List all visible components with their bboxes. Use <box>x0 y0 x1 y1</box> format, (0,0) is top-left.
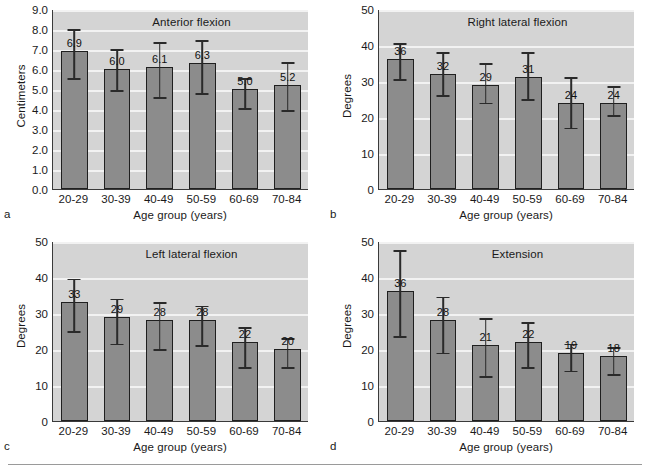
error-bar-cap-lower <box>436 95 449 97</box>
x-tick-label: 30-39 <box>101 192 130 206</box>
bar-group[interactable]: 31 <box>515 9 541 189</box>
bar-group[interactable]: 28 <box>430 241 456 421</box>
error-bar-cap-upper <box>281 62 294 64</box>
bar-series: 332928282220 <box>53 242 308 421</box>
error-bar-cap-lower <box>110 90 123 92</box>
error-bar-cap-upper <box>110 299 123 301</box>
y-tick-label: 10 <box>361 381 374 392</box>
bar-group[interactable]: 33 <box>61 241 87 421</box>
bar-group[interactable]: 29 <box>104 241 130 421</box>
bar-value-label: 24 <box>565 90 577 101</box>
panel-letter: a <box>4 207 10 221</box>
x-axis-label: Age group (years) <box>378 440 634 454</box>
bar-group[interactable]: 28 <box>189 241 215 421</box>
error-bar-cap-lower <box>394 79 407 81</box>
y-axis-ticks: 01020304050 <box>344 234 376 424</box>
bar-group[interactable]: 5.0 <box>232 9 258 189</box>
bar-value-label: 24 <box>608 90 620 101</box>
bar-group[interactable]: 36 <box>387 9 413 189</box>
bar-group[interactable]: 24 <box>558 9 584 189</box>
error-bar-line <box>442 52 444 95</box>
error-bar-cap-lower <box>522 367 535 369</box>
bar-group[interactable]: 36 <box>387 241 413 421</box>
error-bar-cap-upper <box>394 250 407 252</box>
error-bar-cap-lower <box>479 103 492 105</box>
y-tick-label: 6.0 <box>32 65 48 76</box>
plot-area: Extension362821221918 <box>378 242 634 422</box>
bar-group[interactable]: 6.0 <box>104 9 130 189</box>
x-tick-label: 20-29 <box>59 424 88 438</box>
bar-group[interactable]: 5.2 <box>274 9 300 189</box>
bar-value-label: 19 <box>565 340 577 351</box>
bar-group[interactable]: 22 <box>232 241 258 421</box>
y-tick-label: 50 <box>35 237 48 248</box>
panel-d: Degrees01020304050Extension3628212219182… <box>326 234 646 459</box>
bar-group[interactable]: 32 <box>430 9 456 189</box>
error-bar-cap-lower <box>238 367 251 369</box>
bar-group[interactable]: 19 <box>558 241 584 421</box>
plot-area: Left lateral flexion332928282220 <box>52 242 308 422</box>
bar-group[interactable]: 6.9 <box>61 9 87 189</box>
y-tick-label: 5.0 <box>32 85 48 96</box>
bar-group[interactable]: 20 <box>274 241 300 421</box>
bar-value-label: 32 <box>437 61 449 72</box>
bar-value-label: 36 <box>394 278 406 289</box>
x-tick-label: 50-59 <box>513 192 542 206</box>
plot-area: Right lateral flexion363229312424 <box>378 10 634 190</box>
y-tick-label: 9.0 <box>32 5 48 16</box>
error-bar-cap-lower <box>153 97 166 99</box>
error-bar-cap-lower <box>607 374 620 376</box>
error-bar-line <box>570 77 572 127</box>
bar-value-label: 28 <box>196 307 208 318</box>
x-tick-label: 70-84 <box>272 192 301 206</box>
error-bar-cap-lower <box>153 349 166 351</box>
bar-group[interactable]: 22 <box>515 241 541 421</box>
x-tick-label: 20-29 <box>385 424 414 438</box>
y-tick-label: 20 <box>35 345 48 356</box>
y-tick-label: 0 <box>368 417 374 428</box>
bar-value-label: 6.3 <box>195 50 210 61</box>
panel-letter: b <box>330 207 336 221</box>
bar-value-label: 28 <box>437 307 449 318</box>
y-tick-label: 20 <box>361 345 374 356</box>
bar-group[interactable]: 18 <box>600 241 626 421</box>
x-axis-label: Age group (years) <box>52 440 308 454</box>
error-bar-cap-lower <box>110 344 123 346</box>
bar-group[interactable]: 21 <box>472 241 498 421</box>
x-tick-label: 30-39 <box>427 424 456 438</box>
bar-group[interactable]: 6.1 <box>146 9 172 189</box>
x-tick-label: 20-29 <box>385 192 414 206</box>
error-bar-cap-upper <box>522 52 535 54</box>
bar-group[interactable]: 28 <box>146 241 172 421</box>
bar-group[interactable]: 29 <box>472 9 498 189</box>
x-tick-label: 50-59 <box>187 424 216 438</box>
y-tick-label: 30 <box>361 77 374 88</box>
y-tick-label: 20 <box>361 113 374 124</box>
error-bar-cap-lower <box>436 353 449 355</box>
y-tick-label: 7.0 <box>32 45 48 56</box>
error-bar-line <box>485 63 487 103</box>
y-tick-label: 10 <box>35 381 48 392</box>
y-tick-label: 0.0 <box>32 185 48 196</box>
bar-value-label: 31 <box>522 64 534 75</box>
y-tick-label: 3.0 <box>32 125 48 136</box>
figure-bar-chart-grid: Centimeters0.01.02.03.04.05.06.07.08.09.… <box>0 0 649 472</box>
error-bar-cap-lower <box>68 331 81 333</box>
bar-value-label: 18 <box>608 343 620 354</box>
error-bar-line <box>202 40 204 93</box>
error-bar-cap-upper <box>564 77 577 79</box>
y-tick-label: 30 <box>361 309 374 320</box>
x-tick-label: 60-69 <box>229 192 258 206</box>
bar-group[interactable]: 24 <box>600 9 626 189</box>
error-bar-cap-upper <box>436 297 449 299</box>
x-tick-label: 30-39 <box>101 424 130 438</box>
bar-group[interactable]: 6.3 <box>189 9 215 189</box>
bar-value-label: 22 <box>522 329 534 340</box>
bar-value-label: 29 <box>480 72 492 83</box>
y-tick-label: 50 <box>361 237 374 248</box>
y-axis-ticks: 01020304050 <box>18 234 50 424</box>
y-tick-label: 40 <box>361 41 374 52</box>
error-bar-cap-lower <box>479 376 492 378</box>
error-bar-cap-upper <box>68 279 81 281</box>
x-axis-ticks: 20-2930-3940-4950-5960-6970-84 <box>378 192 634 208</box>
